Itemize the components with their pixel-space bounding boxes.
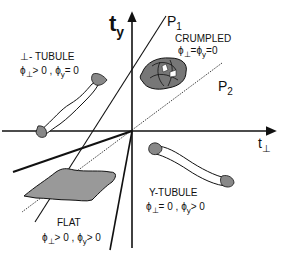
- t-perp-label: t⊥: [258, 136, 271, 154]
- p1-label: P1: [167, 14, 182, 32]
- perp-tubule-shape: [36, 73, 107, 137]
- perp-tubule-title: ⊥- TUBULE: [20, 52, 74, 62]
- crumpled-shape: [140, 58, 186, 89]
- p2-label: P2: [218, 79, 233, 97]
- flat-title: FLAT: [57, 218, 81, 228]
- crumpled-condition: ϕ⊥=ϕy=0: [178, 46, 217, 59]
- phase-diagram: [0, 0, 282, 263]
- y-tubule-title: Y-TUBULE: [149, 188, 198, 198]
- y-tubule-condition: ϕ⊥= 0 , ϕy> 0: [146, 202, 205, 215]
- t-y-label: ty: [109, 13, 124, 39]
- y-tubule-shape: [149, 143, 234, 187]
- flat-condition: ϕ⊥> 0 , ϕy> 0: [42, 233, 101, 246]
- perp-tubule-condition: ϕ⊥> 0 , ϕy= 0: [20, 66, 79, 79]
- crumpled-title: CRUMPLED: [175, 34, 231, 44]
- boundary-line-bottom: [110, 131, 132, 250]
- flat-shape: [24, 169, 116, 201]
- boundary-line-left: [13, 131, 132, 172]
